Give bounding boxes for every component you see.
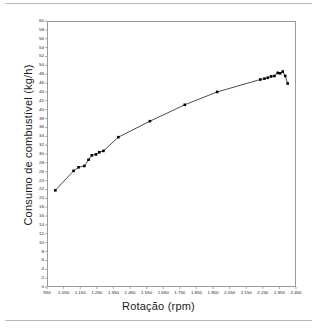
- data-point-marker: [98, 151, 101, 154]
- y-tick-label: 16: [39, 214, 44, 218]
- chart-canvas: [0, 0, 317, 333]
- data-point-marker: [279, 72, 282, 75]
- x-tick-label: 1.150: [75, 291, 86, 295]
- data-point-marker: [102, 150, 105, 153]
- data-point-marker: [276, 72, 279, 75]
- y-tick-label: 46: [39, 81, 44, 85]
- data-point-marker: [263, 77, 266, 80]
- x-tick-label: 1.250: [91, 291, 102, 295]
- x-tick-label: 1.450: [125, 291, 136, 295]
- y-tick-label: 42: [39, 99, 44, 103]
- y-tick-label: 32: [39, 143, 44, 147]
- y-tick-label: 52: [39, 54, 44, 58]
- y-tick-label: 44: [39, 90, 44, 94]
- y-tick-label: 56: [39, 37, 44, 41]
- data-point-marker: [286, 82, 289, 85]
- data-point-marker: [83, 165, 86, 168]
- x-tick-label: 2.450: [291, 291, 302, 295]
- x-tick-label: 950: [43, 291, 50, 295]
- y-tick-label: 0: [42, 285, 44, 289]
- series-line: [55, 72, 287, 191]
- data-point-marker: [95, 153, 98, 156]
- x-axis-title: Rotação (rpm): [0, 300, 317, 312]
- y-tick-label: 22: [39, 187, 44, 191]
- data-point-marker: [183, 103, 186, 106]
- y-tick-label: 50: [39, 63, 44, 67]
- y-tick-label: 20: [39, 196, 44, 200]
- x-tick-label: 1.850: [191, 291, 202, 295]
- y-tick-label: 54: [39, 45, 44, 49]
- y-axis-title: Consumo de combustível (kg/h): [22, 55, 34, 235]
- data-point-marker: [270, 75, 273, 78]
- data-point-marker: [149, 120, 152, 123]
- figure-container: 6058565452504846444240383634323028262422…: [0, 0, 317, 333]
- x-tick-label: 1.950: [208, 291, 219, 295]
- y-tick-label: 12: [39, 232, 44, 236]
- series-markers: [54, 70, 289, 191]
- y-tick-label: 34: [39, 134, 44, 138]
- x-tick-label: 1.050: [58, 291, 69, 295]
- x-tick-label: 2.150: [241, 291, 252, 295]
- y-tick-label: 6: [42, 258, 44, 262]
- y-tick-label: 60: [39, 19, 44, 23]
- x-tick-label: 1.750: [174, 291, 185, 295]
- x-tick-label: 2.250: [257, 291, 268, 295]
- y-tick-label: 30: [39, 152, 44, 156]
- y-tick-label: 48: [39, 72, 44, 76]
- y-tick-label: 36: [39, 125, 44, 129]
- data-point-marker: [216, 91, 219, 94]
- data-point-marker: [87, 158, 90, 161]
- y-tick-label: 58: [39, 28, 44, 32]
- data-point-marker: [117, 136, 120, 139]
- data-point-marker: [281, 70, 284, 73]
- y-tick-label: 4: [42, 267, 44, 271]
- y-tick-label: 38: [39, 116, 44, 120]
- y-tick-label: 2: [42, 276, 44, 280]
- x-tick-label: 2.050: [224, 291, 235, 295]
- data-point-marker: [266, 76, 269, 79]
- data-point-marker: [259, 78, 262, 81]
- y-tick-label: 26: [39, 170, 44, 174]
- data-point-marker: [72, 170, 75, 173]
- data-point-marker: [77, 166, 80, 169]
- x-tick-label: 1.350: [108, 291, 119, 295]
- x-axis-ticks: [47, 287, 296, 289]
- y-tick-label: 40: [39, 107, 44, 111]
- data-point-marker: [273, 75, 276, 78]
- y-tick-label: 24: [39, 178, 44, 182]
- y-tick-label: 14: [39, 223, 44, 227]
- y-tick-label: 28: [39, 161, 44, 165]
- y-axis-ticks: [45, 21, 47, 287]
- data-point-marker: [54, 189, 57, 192]
- y-tick-label: 10: [39, 240, 44, 244]
- x-tick-label: 2.350: [274, 291, 285, 295]
- data-point-marker: [284, 75, 287, 78]
- x-tick-label: 1.650: [158, 291, 169, 295]
- x-tick-label: 1.550: [141, 291, 152, 295]
- y-tick-label: 18: [39, 205, 44, 209]
- y-tick-label: 8: [42, 249, 44, 253]
- data-point-marker: [91, 154, 94, 157]
